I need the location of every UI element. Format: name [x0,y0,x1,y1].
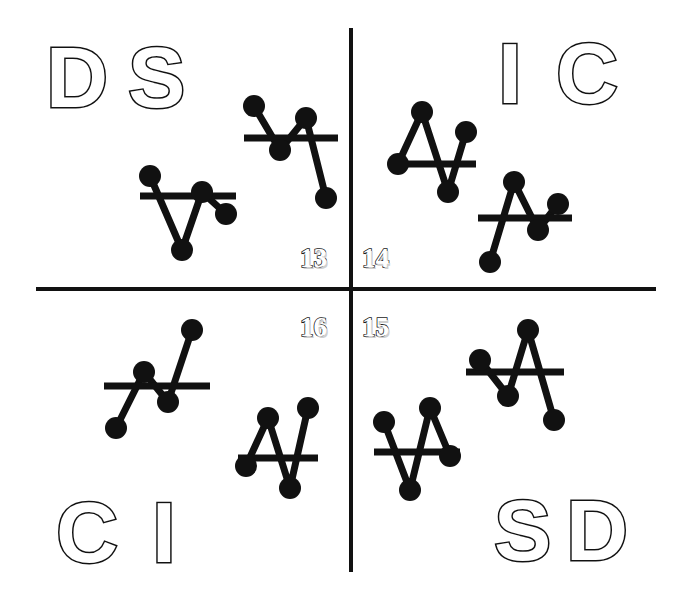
glyph-point [439,445,461,467]
letter-tl-1: D [46,34,108,120]
glyph-bl-2 [238,400,328,505]
glyph-point [279,477,301,499]
glyph-point [295,107,317,129]
letter-bl-2: I [152,489,176,575]
glyph-tr-2 [478,162,578,282]
glyph-point [387,153,409,175]
quadrant-number-16: 16 [300,314,327,341]
glyph-point [455,121,477,143]
vertical-divider [349,28,353,572]
glyph-tl-2 [244,94,344,219]
glyph-point [181,319,203,341]
glyph-point [215,203,237,225]
glyph-point [497,385,519,407]
glyph-br-2 [466,318,576,443]
letter-tr-1: I [498,30,522,116]
glyph-br-1 [374,394,469,504]
glyph-point [479,251,501,273]
glyph-polyline [150,176,226,250]
glyph-point [157,391,179,413]
quadrant-number-14: 14 [362,245,389,272]
letter-br-1: S [494,487,551,573]
quadrant-number-13: 13 [300,245,327,272]
letter-tr-2: C [556,30,618,116]
stimulus-figure: D S 13 I C [0,0,690,596]
glyph-point [105,417,127,439]
glyph-tr-1 [390,98,485,218]
quadrant-number-15: 15 [362,314,389,341]
glyph-point [139,165,161,187]
glyph-point [399,479,421,501]
glyph-point [315,187,337,209]
glyph-point [419,397,441,419]
glyph-tl-1 [140,158,240,273]
glyph-polyline [398,112,466,192]
glyph-point [527,219,549,241]
glyph-point [503,171,525,193]
letter-br-2: D [566,487,628,573]
horizontal-divider [36,287,656,291]
glyph-point [411,101,433,123]
glyph-polyline [116,330,192,428]
glyph-point [373,411,395,433]
glyph-point [469,349,491,371]
glyph-point [543,409,565,431]
glyph-point [257,407,279,429]
glyph-point [269,139,291,161]
glyph-point [517,319,539,341]
glyph-point [171,239,193,261]
glyph-point [437,181,459,203]
glyph-point [191,181,213,203]
glyph-polyline [490,182,558,262]
glyph-point [547,193,569,215]
glyph-point [297,397,319,419]
letter-bl-1: C [56,489,118,575]
glyph-point [235,455,257,477]
glyph-point [133,361,155,383]
glyph-point [243,95,265,117]
glyph-bl-1 [104,318,219,453]
letter-tl-2: S [128,34,185,120]
